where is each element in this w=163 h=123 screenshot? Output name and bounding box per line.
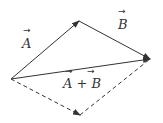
label-a: A xyxy=(21,36,31,51)
arrow-a: → xyxy=(23,25,31,35)
arrow-sum-b: → xyxy=(87,66,95,76)
arrow-b: → xyxy=(118,6,126,16)
arrow-sum-a: → xyxy=(65,66,73,76)
vector-diagram: → A → B → → A + B xyxy=(0,0,163,123)
label-sum: A + B xyxy=(62,76,101,91)
label-b: B xyxy=(117,17,128,32)
vector-b xyxy=(79,21,150,59)
